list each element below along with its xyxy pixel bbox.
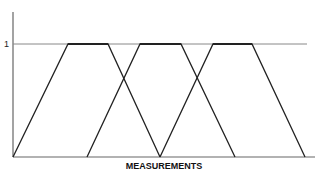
trapezoid-set-3 bbox=[160, 44, 305, 157]
x-axis-label: MEASUREMENTS bbox=[126, 161, 203, 171]
trapezoid-set-1 bbox=[13, 44, 160, 157]
membership-diagram: 1 MEASUREMENTS bbox=[0, 0, 315, 172]
y-tick-label-one: 1 bbox=[4, 39, 9, 49]
trapezoid-group bbox=[13, 44, 305, 157]
trapezoid-set-2 bbox=[87, 44, 235, 157]
